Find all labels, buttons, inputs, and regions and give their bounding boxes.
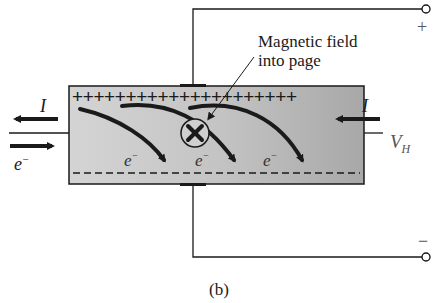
annotation-line2: into page [258, 52, 321, 69]
terminal-minus-label: − [418, 232, 428, 250]
hall-voltage-label: VH [390, 132, 410, 155]
bottom-contact [180, 183, 206, 186]
terminal-plus [422, 5, 430, 13]
magnetic-field-into-page-icon [181, 119, 209, 147]
current-label-left: I [40, 97, 46, 115]
electron-label-left: e− [14, 154, 29, 173]
terminal-plus-label: + [417, 18, 427, 36]
terminal-minus [422, 253, 430, 261]
annotation-line1: Magnetic field [258, 33, 358, 50]
electron-label-1: e− [124, 151, 138, 169]
electron-label-3: e− [263, 151, 277, 169]
current-label-right: I [362, 97, 368, 115]
positive-charges: +++++++++++++++++++++ [72, 87, 297, 106]
electron-label-2: e− [195, 151, 209, 169]
figure-caption: (b) [209, 281, 229, 298]
hall-effect-diagram [0, 0, 433, 303]
